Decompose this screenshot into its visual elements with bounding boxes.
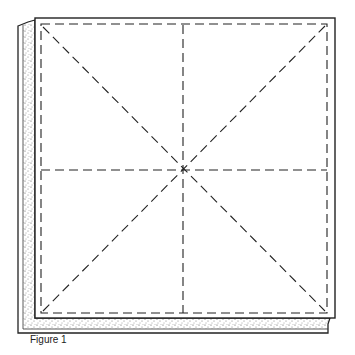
quilt-diagram [0,0,355,355]
figure-caption: Figure 1 [30,334,67,345]
